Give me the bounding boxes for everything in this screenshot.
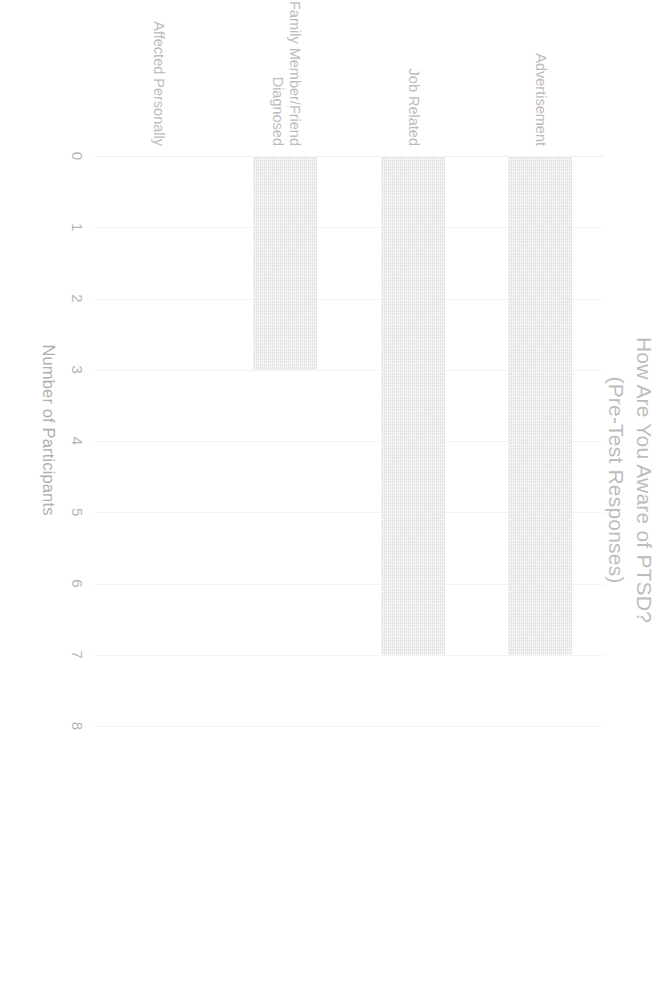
x-axis-tick-label: 2 xyxy=(69,279,86,319)
x-axis-tick-label: 1 xyxy=(69,207,86,247)
category-label: Affected Personally xyxy=(149,0,167,156)
bar[interactable] xyxy=(381,156,445,655)
x-axis-tick-label: 7 xyxy=(69,635,86,675)
x-axis-title: Number of Participants xyxy=(39,90,58,770)
bar-chart-figure: How Are You Aware of PTSD? (Pre-Test Res… xyxy=(0,0,666,986)
plot-area: 012345678AdvertisementJob RelatedFamily … xyxy=(94,156,604,726)
category-label: Advertisement xyxy=(532,0,550,156)
x-axis-tick-label: 4 xyxy=(69,421,86,461)
chart-title-line1: How Are You Aware of PTSD? xyxy=(633,337,656,623)
chart-title: How Are You Aware of PTSD? (Pre-Test Res… xyxy=(603,270,658,690)
bar-row: Family Member/Friend Diagnosed xyxy=(253,156,317,726)
bar-row: Advertisement xyxy=(508,156,572,726)
x-axis-tick-label: 6 xyxy=(69,564,86,604)
rotated-figure-wrapper: How Are You Aware of PTSD? (Pre-Test Res… xyxy=(0,0,666,986)
bar-row: Affected Personally xyxy=(126,156,190,726)
bar[interactable] xyxy=(508,156,572,655)
chart-subtitle: (Pre-Test Responses) xyxy=(603,270,631,690)
x-axis-tick-label: 3 xyxy=(69,350,86,390)
x-axis-tick-label: 8 xyxy=(69,706,86,746)
category-label: Job Related xyxy=(404,0,422,156)
gridline xyxy=(94,726,604,727)
bar-row: Job Related xyxy=(381,156,445,726)
category-label: Family Member/Friend Diagnosed xyxy=(268,0,303,156)
bar[interactable] xyxy=(253,156,317,370)
x-axis-tick-label: 0 xyxy=(69,136,86,176)
x-axis-tick-label: 5 xyxy=(69,492,86,532)
